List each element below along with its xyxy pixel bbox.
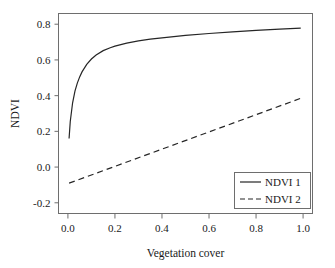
chart-figure: -0.20.00.20.40.60.8 0.00.20.40.60.81.0 V… bbox=[0, 0, 335, 268]
y-tick-label-2: 0.2 bbox=[37, 125, 51, 137]
legend-label-ndvi-1: NDVI 1 bbox=[265, 176, 301, 188]
x-tick-label-3: 0.6 bbox=[202, 222, 216, 234]
x-tick-label-0: 0.0 bbox=[61, 222, 75, 234]
ndvi-vegetation-cover-chart: -0.20.00.20.40.60.8 0.00.20.40.60.81.0 V… bbox=[0, 0, 335, 268]
x-tick-label-1: 0.2 bbox=[108, 222, 122, 234]
y-tick-label-0: -0.2 bbox=[33, 197, 50, 209]
legend-label-ndvi-2: NDVI 2 bbox=[265, 193, 301, 205]
y-tick-label-1: 0.0 bbox=[37, 161, 51, 173]
y-tick-label-3: 0.4 bbox=[37, 90, 51, 102]
y-tick-label-5: 0.8 bbox=[37, 18, 51, 30]
chart-legend: NDVI 1 NDVI 2 bbox=[235, 173, 311, 209]
x-axis-title: Vegetation cover bbox=[147, 247, 225, 260]
x-tick-label-2: 0.4 bbox=[155, 222, 169, 234]
x-tick-label-4: 0.8 bbox=[249, 222, 263, 234]
y-tick-label-4: 0.6 bbox=[37, 54, 51, 66]
x-tick-label-5: 1.0 bbox=[296, 222, 310, 234]
y-axis-title: NDVI bbox=[9, 99, 21, 128]
